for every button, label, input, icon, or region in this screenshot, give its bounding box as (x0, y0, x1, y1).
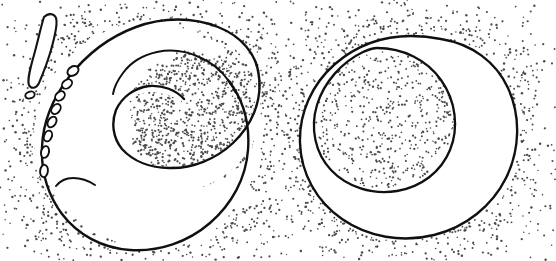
stipple-dot (478, 20, 480, 22)
stipple-dot (278, 105, 280, 107)
stipple-dot (432, 94, 434, 96)
stipple-dot (163, 113, 165, 115)
stipple-dot (384, 135, 386, 137)
stipple-dot (33, 251, 35, 253)
stipple-dot (104, 20, 106, 22)
stipple-dot (328, 51, 330, 53)
stipple-dot (449, 110, 451, 112)
stipple-dot (88, 4, 90, 6)
stipple-dot (234, 63, 236, 65)
stipple-dot (269, 198, 271, 200)
stipple-dot (233, 209, 235, 211)
stipple-dot (20, 186, 22, 188)
stipple-dot (399, 148, 401, 150)
stipple-dot (249, 224, 251, 226)
stipple-dot (532, 179, 534, 181)
stipple-dot (460, 24, 462, 26)
stipple-dot (187, 65, 189, 67)
stipple-dot (515, 49, 517, 51)
stipple-dot (268, 255, 270, 257)
stipple-dot (325, 246, 327, 248)
stipple-dot (226, 68, 227, 69)
stipple-dot (389, 176, 391, 178)
stipple-dot (191, 60, 193, 62)
stipple-dot (528, 88, 530, 90)
stipple-dot (244, 93, 246, 95)
stipple-dot (307, 29, 309, 31)
stipple-dot (226, 236, 228, 238)
stipple-dot (213, 97, 215, 99)
stipple-dot (143, 135, 145, 137)
stipple-dot (164, 124, 166, 126)
stipple-dot (348, 157, 350, 159)
stipple-dot (541, 69, 543, 71)
figure-canvas (0, 0, 556, 261)
stipple-dot (383, 172, 385, 174)
stipple-dot (124, 4, 126, 6)
stipple-dot (403, 2, 405, 4)
stipple-dot (194, 62, 196, 64)
stipple-dot (270, 89, 272, 91)
stipple-dot (321, 218, 323, 220)
stipple-dot (447, 143, 449, 145)
stipple-dot (293, 66, 295, 68)
stipple-dot (200, 60, 202, 62)
stipple-dot (274, 23, 276, 25)
stipple-dot (429, 17, 431, 19)
stipple-dot (391, 180, 393, 182)
stipple-dot (172, 100, 174, 102)
stipple-dot (50, 68, 52, 70)
stipple-dot (445, 116, 447, 118)
stipple-dot (120, 7, 122, 9)
stipple-dot (488, 224, 490, 226)
stipple-dot (394, 247, 396, 249)
stipple-dot (26, 140, 28, 142)
stipple-dot (266, 65, 268, 67)
stipple-dot (544, 205, 546, 207)
stipple-dot (362, 145, 364, 147)
stipple-dot (45, 229, 47, 231)
stipple-dot (219, 13, 221, 15)
stipple-dot (414, 66, 416, 68)
stipple-dot (361, 234, 363, 236)
stipple-dot (25, 132, 27, 134)
stipple-dot (412, 135, 414, 137)
stipple-dot (168, 141, 170, 143)
stipple-dot (528, 108, 530, 110)
stipple-dot (442, 93, 444, 95)
stipple-dot (186, 90, 188, 92)
stipple-dot (150, 146, 152, 148)
stipple-dot (89, 254, 91, 256)
stipple-dot (419, 156, 421, 158)
stipple-dot (3, 127, 5, 129)
stipple-dot (372, 80, 374, 82)
stipple-dot (440, 118, 442, 120)
stipple-dot (530, 158, 531, 159)
stipple-dot (267, 241, 268, 242)
stipple-dot (155, 1, 157, 3)
stipple-dot (229, 110, 231, 112)
stipple-dot (146, 79, 148, 81)
stipple-dot (160, 130, 162, 132)
stipple-dot (405, 170, 407, 172)
stipple-dot (244, 74, 246, 76)
stipple-dot (270, 18, 272, 20)
stipple-dot (372, 239, 374, 241)
stipple-dot (358, 25, 360, 27)
stipple-dot (361, 139, 363, 141)
stipple-dot (229, 122, 231, 124)
stipple-dot (27, 87, 29, 89)
stipple-dot (438, 99, 440, 101)
stipple-dot (419, 25, 421, 27)
stipple-dot (185, 81, 187, 83)
stipple-dot (222, 108, 224, 110)
stipple-dot (323, 132, 325, 134)
stipple-dot (188, 60, 190, 62)
stipple-dot (290, 129, 292, 131)
stipple-dot (387, 98, 389, 100)
stipple-dot (175, 6, 177, 8)
stipple-dot (182, 74, 184, 76)
stipple-dot (322, 250, 324, 252)
stipple-dot (401, 88, 403, 90)
stipple-dot (25, 189, 27, 191)
